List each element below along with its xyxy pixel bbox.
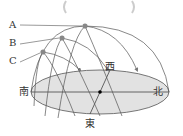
- sun-C-icon: [40, 49, 45, 54]
- label-C: C: [9, 56, 17, 66]
- label-west: 西: [105, 62, 115, 72]
- label-A: A: [9, 20, 16, 30]
- celestial-sphere-diagram: [0, 0, 183, 136]
- label-south: 南: [19, 87, 29, 97]
- sun-B-icon: [59, 35, 64, 40]
- label-east: 東: [85, 119, 95, 129]
- pointer-B: [20, 38, 59, 44]
- sun-A-icon: [82, 23, 87, 28]
- label-B: B: [9, 38, 16, 48]
- pointer-A: [20, 25, 82, 26]
- observer-point: [98, 90, 102, 94]
- label-north: 北: [153, 87, 163, 97]
- bracket-left: [64, 1, 66, 13]
- bracket-right: [132, 1, 134, 13]
- pointer-C: [20, 53, 40, 62]
